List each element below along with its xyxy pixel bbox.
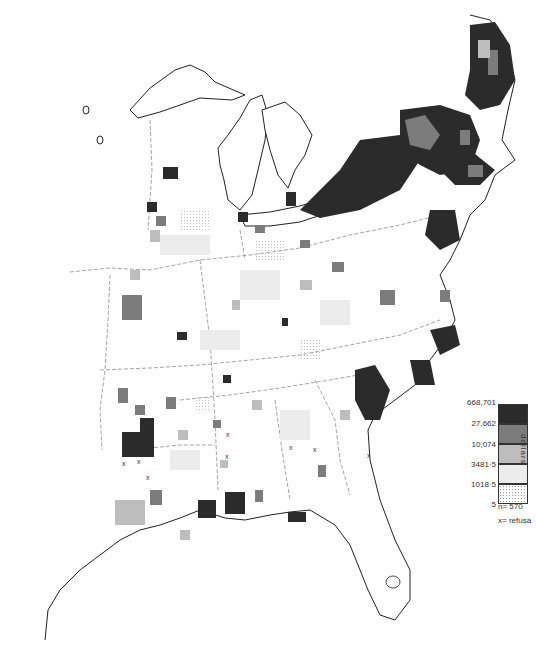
- refusal-note: x= refusa: [498, 516, 531, 525]
- lake-okeechobee: [386, 576, 400, 588]
- legend-unit: dollars: [519, 434, 528, 465]
- svg-text:x: x: [122, 460, 126, 467]
- legend-swatch-5: [498, 484, 528, 504]
- svg-text:x: x: [289, 444, 293, 451]
- legend-value-4: 3481·5: [471, 460, 496, 469]
- svg-text:x: x: [146, 474, 150, 481]
- svg-text:x: x: [226, 431, 230, 438]
- legend-value-6: 5: [492, 500, 496, 509]
- legend-value-2: 27,662: [472, 419, 496, 428]
- class-fourth: [160, 235, 350, 470]
- legend-swatch-4: [498, 464, 528, 484]
- legend-value-5: 1018·5: [471, 480, 496, 489]
- legend-swatch-1: [498, 404, 528, 424]
- legend: 668,701 27,662 10,074 3481·5 1018·5 5 do…: [448, 398, 536, 528]
- choropleth-map: x x x x x x x x: [0, 0, 536, 669]
- legend-value-1: 668,701: [467, 398, 496, 407]
- svg-text:x: x: [313, 446, 317, 453]
- refusal-markers: x x x x x x x x: [122, 431, 371, 481]
- sample-size: n= 570: [498, 502, 523, 511]
- svg-text:x: x: [367, 452, 371, 459]
- legend-value-3: 10,074: [472, 440, 496, 449]
- svg-text:x: x: [225, 453, 229, 460]
- svg-text:x: x: [137, 458, 141, 465]
